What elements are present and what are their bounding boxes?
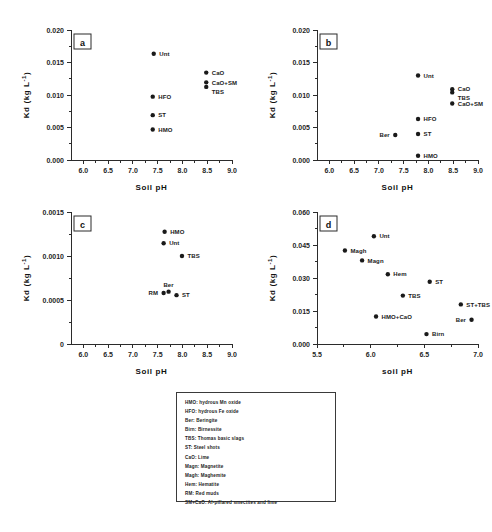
x-tick-label: 7.0 (128, 167, 138, 174)
svg-text:Kd (kg L-1): Kd (kg L-1) (21, 72, 31, 119)
data-point (166, 289, 170, 293)
svg-text:Kd (kg L-1): Kd (kg L-1) (267, 255, 277, 302)
legend-entry: RM: Red muds (185, 489, 329, 498)
data-point-label: TBS (212, 89, 224, 95)
x-tick-label: 9.0 (473, 167, 483, 174)
legend-entry: Hem: Hematite (185, 480, 329, 489)
panel-c: 00.00050.00100.00156.06.57.07.58.08.59.0… (0, 196, 246, 386)
x-tick-label: 7.5 (153, 167, 163, 174)
data-point-label: HMO+CaO (382, 314, 413, 320)
data-point-label: Ber (163, 282, 174, 288)
legend-entry: SM+CaO: Al-pillared smectites and lime (185, 498, 329, 507)
y-tick-label: 0.000 (292, 341, 310, 348)
data-point-label: CaO (458, 86, 471, 92)
data-point (424, 332, 428, 336)
legend-entry: Magn: Magnetite (185, 462, 329, 471)
legend-entry: HMO: hydrous Mn oxide (185, 398, 329, 407)
y-tick-label: 0 (60, 341, 64, 348)
y-tick-label: 0.020 (46, 27, 64, 34)
data-point (459, 302, 463, 306)
data-point-label: Hem (393, 271, 406, 277)
y-tick-label: 0.0005 (43, 297, 65, 304)
x-tick-label: 5.5 (312, 351, 322, 358)
data-point-label: HMO (158, 127, 173, 133)
x-tick-label: 8.5 (448, 167, 458, 174)
x-tick-label: 8.5 (202, 167, 212, 174)
data-point-label: TBS (187, 253, 199, 259)
data-point-label: CaO+SM (212, 80, 237, 86)
data-point-label: ST (435, 279, 443, 285)
panel-letter: d (326, 220, 332, 230)
legend-entry: Magh: Maghemite (185, 471, 329, 480)
data-point (372, 234, 376, 238)
data-point (416, 132, 420, 136)
data-point (204, 70, 208, 74)
y-tick-label: 0.015 (46, 59, 64, 66)
x-tick-label: 6.5 (349, 167, 359, 174)
y-axis-title: Kd (kg L-1) (21, 255, 31, 302)
data-point-label: CaO (212, 70, 225, 76)
panel-letter: c (80, 220, 85, 230)
panel-a-plot: 0.0000.0050.0100.0150.0206.06.57.07.58.0… (0, 0, 246, 196)
data-point (416, 73, 420, 77)
y-tick-label: 0.005 (292, 124, 310, 131)
y-tick-label: 0.0010 (43, 253, 65, 260)
data-point (450, 90, 454, 94)
x-axis-title: Soil pH (136, 367, 168, 376)
legend-entry: CaO: Lime (185, 453, 329, 462)
legend-entry: HFO: hydrous Fe oxide (185, 407, 329, 416)
data-point (343, 248, 347, 252)
y-tick-label: 0.030 (292, 275, 310, 282)
y-tick-label: 0.010 (292, 92, 310, 99)
legend-entry: TBS: Thomas basic slags (185, 434, 329, 443)
x-tick-label: 7.0 (473, 351, 483, 358)
panel-c-plot: 00.00050.00100.00156.06.57.07.58.08.59.0… (0, 196, 246, 386)
legend-entry: ST: Steel shots (185, 443, 329, 452)
data-point (360, 258, 364, 262)
y-axis-title: Kd (kg L-1) (21, 72, 31, 119)
x-tick-label: 6.0 (79, 351, 89, 358)
x-tick-label: 8.0 (178, 167, 188, 174)
y-tick-label: 0.000 (292, 157, 310, 164)
x-tick-label: 6.0 (325, 167, 335, 174)
data-point-label: HMO (170, 229, 185, 235)
x-tick-label: 6.0 (79, 167, 89, 174)
data-point-label: Ber (456, 317, 467, 323)
y-tick-label: 0.010 (46, 92, 64, 99)
data-point-label: HMO (424, 153, 439, 159)
y-axis-title: Kd (kg L-1) (267, 72, 277, 119)
data-point-label: Unt (169, 240, 179, 246)
data-point (151, 113, 155, 117)
svg-text:Kd (kg L-1): Kd (kg L-1) (267, 72, 277, 119)
data-point (374, 314, 378, 318)
data-point (469, 318, 473, 322)
x-tick-label: 9.0 (227, 351, 237, 358)
data-point-label: Unt (424, 73, 434, 79)
x-tick-label: 9.0 (227, 167, 237, 174)
panel-letter: b (326, 38, 332, 48)
x-tick-label: 6.5 (419, 351, 429, 358)
data-point-label: CaO+SM (458, 101, 483, 107)
x-axis-title: Soil pH (382, 183, 414, 192)
y-tick-label: 0.005 (46, 124, 64, 131)
x-tick-label: 6.5 (103, 167, 113, 174)
y-tick-label: 0.045 (292, 242, 310, 249)
data-point (450, 101, 454, 105)
data-point (161, 241, 165, 245)
figure-root: 0.0000.0050.0100.0150.0206.06.57.07.58.0… (0, 0, 492, 532)
data-point (151, 127, 155, 131)
data-point (162, 230, 166, 234)
x-tick-label: 7.0 (128, 351, 138, 358)
x-tick-label: 7.5 (153, 351, 163, 358)
data-point (180, 254, 184, 258)
x-tick-label: 7.0 (374, 167, 384, 174)
y-tick-label: 0.015 (292, 59, 310, 66)
data-point (416, 117, 420, 121)
y-tick-label: 0.060 (292, 209, 310, 216)
data-point (428, 280, 432, 284)
svg-text:Kd (kg L-1): Kd (kg L-1) (21, 255, 31, 302)
data-point (151, 94, 155, 98)
legend-entry: Birn: Birnessite (185, 425, 329, 434)
legend-entry: Ber: Beringite (185, 416, 329, 425)
data-point-label: ST (158, 112, 166, 118)
